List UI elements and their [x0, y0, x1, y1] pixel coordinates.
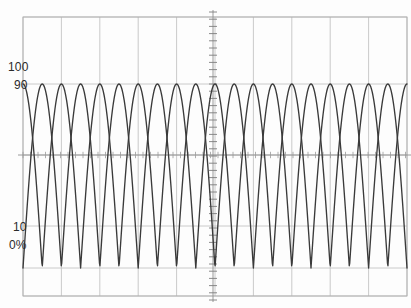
- oscilloscope-chart: 100 90 10 0%: [0, 0, 411, 308]
- y-axis-label-90: 90: [14, 78, 28, 92]
- y-axis-label-0-percent: 0%: [9, 238, 27, 252]
- y-axis-label-100: 100: [8, 60, 29, 74]
- y-axis-label-10: 10: [13, 220, 27, 234]
- waveform-plot: [0, 0, 411, 308]
